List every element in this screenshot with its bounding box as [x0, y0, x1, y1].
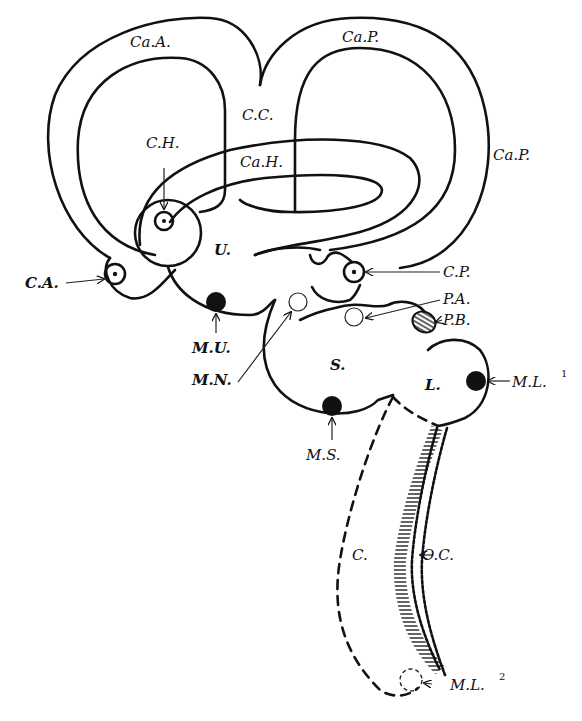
label-ca-p-right: Ca.P. [493, 146, 530, 164]
label-o-c: O.C. [422, 546, 454, 564]
posterior-canal [295, 48, 455, 250]
label-m-n: M.N. [191, 371, 232, 389]
label-c-h: C.H. [146, 134, 180, 152]
label-s: S. [330, 356, 346, 374]
label-c-a: C.A. [25, 274, 59, 292]
macula-sacculi [322, 396, 342, 416]
label-c-c: C.C. [242, 106, 273, 124]
label-p-b: P.B. [442, 311, 471, 329]
label-m-l2: M.L. [449, 676, 485, 694]
label-c-p: C.P. [443, 263, 471, 281]
labyrinth-diagram: Ca.A. Ca.P. C.C. C.H. Ca.H. Ca.P. U. C.A… [0, 0, 582, 721]
label-u: U. [214, 241, 231, 259]
label-m-l1-sup: 1 [561, 368, 567, 379]
label-ca-h: Ca.H. [240, 153, 283, 171]
label-l: L. [424, 376, 441, 394]
label-p-a: P.A. [442, 290, 470, 308]
macula-lagenae-2 [400, 669, 422, 691]
label-m-l2-sup: 2 [499, 671, 505, 682]
macula-lagenae-1 [466, 371, 486, 391]
macula-neglecta [289, 293, 307, 311]
label-ca-a: Ca.A. [130, 33, 171, 51]
label-m-u: M.U. [191, 339, 231, 357]
papilla-basilaris [409, 307, 440, 336]
papilla-amphibiorum [345, 308, 363, 326]
ampulla-ch [135, 200, 201, 266]
label-m-s: M.S. [305, 446, 341, 464]
label-c: C. [352, 546, 368, 564]
label-ca-p-top: Ca.P. [342, 28, 379, 46]
label-m-l1: M.L. [511, 373, 547, 391]
macula-utriculi [206, 292, 226, 312]
